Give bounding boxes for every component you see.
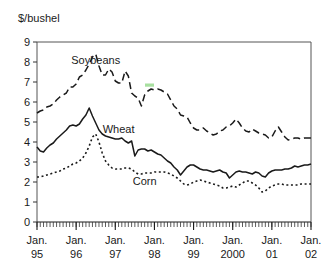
- series-label-soybeans: Soybeans: [71, 54, 120, 66]
- x-tick-label-month: Jan.: [66, 234, 87, 246]
- x-tick-label-year: 97: [109, 248, 121, 260]
- plot-frame: [37, 42, 311, 222]
- plot-border: [37, 42, 311, 222]
- x-tick-label-month: Jan.: [301, 234, 322, 246]
- y-tick-label: 6: [24, 96, 30, 108]
- x-tick-label-year: 96: [70, 248, 82, 260]
- series-label-wheat: Wheat: [103, 123, 135, 135]
- x-tick-label-year: 02: [305, 248, 317, 260]
- x-tick-label-month: Jan.: [144, 234, 165, 246]
- series-line-corn: [37, 134, 311, 192]
- series-line-soybeans: [37, 54, 311, 140]
- green-highlight-mark: [145, 84, 154, 87]
- green-highlight-mark: [145, 84, 154, 87]
- y-tick-label: 5: [24, 116, 30, 128]
- x-tick-label-month: Jan.: [105, 234, 126, 246]
- y-tick-label: 4: [24, 136, 30, 148]
- y-tick-label: 3: [24, 156, 30, 168]
- series-label-corn: Corn: [133, 175, 157, 187]
- x-tick-label-year: 98: [148, 248, 160, 260]
- x-tick-label-month: Jan.: [183, 234, 204, 246]
- x-tick-label-year: 01: [266, 248, 278, 260]
- chart-plot-area: 0123456789 Jan.95Jan.96Jan.97Jan.98Jan.9…: [0, 0, 329, 270]
- x-tick-label-month: Jan.: [27, 234, 48, 246]
- x-tick-label-month: Jan.: [261, 234, 282, 246]
- data-series-group: [37, 54, 311, 192]
- x-axis-tick-labels: Jan.95Jan.96Jan.97Jan.98Jan.99Jan.2000Ja…: [27, 234, 322, 260]
- commodity-price-chart: $/bushel 0123456789 Jan.95Jan.96Jan.97Ja…: [0, 0, 329, 270]
- x-tick-label-year: 2000: [220, 248, 244, 260]
- y-tick-label: 2: [24, 176, 30, 188]
- x-tick-label-month: Jan.: [222, 234, 243, 246]
- x-axis-minor-ticks: [37, 222, 311, 227]
- series-line-wheat: [37, 108, 311, 178]
- x-tick-label-year: 95: [31, 248, 43, 260]
- y-axis-tick-labels: 0123456789: [24, 36, 30, 228]
- y-tick-label: 1: [24, 196, 30, 208]
- y-tick-label: 7: [24, 76, 30, 88]
- y-tick-label: 0: [24, 216, 30, 228]
- y-tick-label: 9: [24, 36, 30, 48]
- x-tick-label-year: 99: [187, 248, 199, 260]
- y-axis-ticks: [33, 42, 37, 222]
- series-annotations: SoybeansWheatCorn: [71, 54, 156, 187]
- y-tick-label: 8: [24, 56, 30, 68]
